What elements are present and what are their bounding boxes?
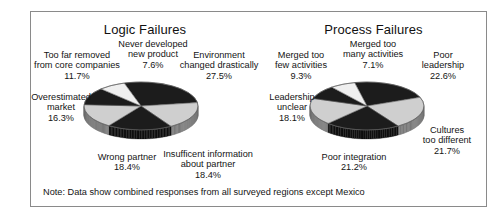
- figure-frame: Logic Failures Too far removed from core…: [30, 11, 487, 207]
- chart-title-process: Process Failures: [259, 22, 488, 37]
- figure-root: Logic Failures Too far removed from core…: [0, 0, 504, 217]
- slice-label-leadership-unclear: Leadership unclear 18.1%: [255, 92, 329, 123]
- figure-note: Note: Data show combined responses from …: [43, 187, 365, 197]
- pie-chart-logic: [79, 76, 211, 144]
- pie-svg-logic: [79, 76, 211, 144]
- slice-label-merged-too-many: Merged too many activities 7.1%: [329, 39, 417, 70]
- slice-label-insufficient-information: Insufficent information about partner 18…: [155, 149, 261, 180]
- chart-title-logic: Logic Failures: [31, 22, 259, 37]
- slice-label-overestimated-market: Overestimated market 16.3%: [25, 92, 97, 123]
- slice-label-poor-leadership: Poor leadership 22.6%: [411, 50, 475, 81]
- slice-label-environment-changed: Environment changed drastically 27.5%: [173, 50, 265, 81]
- chart-panel-process-failures: Process Failures Merged too few activiti…: [259, 12, 488, 206]
- slice-label-poor-integration: Poor integration 21.2%: [309, 152, 399, 173]
- slice-label-cultures-too-different: Cultures too different 21.7%: [409, 125, 485, 156]
- chart-panel-logic-failures: Logic Failures Too far removed from core…: [31, 12, 259, 206]
